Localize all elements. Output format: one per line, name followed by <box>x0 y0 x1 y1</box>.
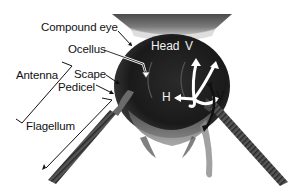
right-flagellum <box>208 102 288 186</box>
label-scape: Scape <box>74 69 106 81</box>
label-h: H <box>162 91 171 103</box>
label-v-right: V <box>216 89 225 102</box>
label-pedicel: Pedicel <box>58 82 95 94</box>
label-antenna: Antenna <box>16 70 58 82</box>
anatomy-figure: Compound eye Ocellus Head V Antenna Scap… <box>0 0 299 192</box>
label-v-upper: V <box>185 40 193 52</box>
label-ocellus: Ocellus <box>68 44 106 56</box>
label-head: Head <box>151 40 179 52</box>
label-compound-eye: Compound eye <box>41 22 118 34</box>
label-flagellum: Flagellum <box>26 121 75 133</box>
